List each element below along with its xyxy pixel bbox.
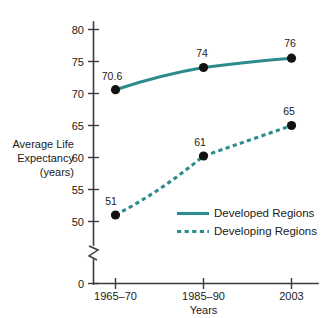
life-expectancy-line-chart: Average Life Expectancy (years) 80 75 70 — [0, 0, 323, 318]
x-axis-tick-labels: 1965–70 1985–90 2003 — [94, 290, 304, 302]
legend-item-developing-regions[interactable]: Developing Regions — [177, 225, 317, 237]
y-tick-label-0: 0 — [78, 278, 84, 290]
data-point-developed-1965-70 — [111, 85, 120, 94]
series-developing-regions: 51 61 65 — [105, 105, 296, 220]
chart-legend: Developed Regions Developing Regions — [177, 207, 317, 237]
data-label-developing-2003: 65 — [283, 105, 295, 117]
data-label-developed-1985-90: 74 — [196, 47, 208, 59]
y-tick-label-65: 65 — [72, 120, 84, 132]
y-tick-label-80: 80 — [72, 24, 84, 36]
y-tick-label-70: 70 — [72, 88, 84, 100]
data-label-developing-1965-70: 51 — [105, 195, 117, 207]
x-axis-title: Years — [190, 304, 218, 316]
data-point-developed-2003 — [287, 54, 296, 63]
y-tick-label-75: 75 — [72, 56, 84, 68]
y-axis-tick-labels: 80 75 70 65 60 55 50 0 — [72, 24, 84, 290]
y-axis-title: Average Life Expectancy (years) — [12, 138, 74, 178]
chart-canvas: Average Life Expectancy (years) 80 75 70 — [0, 0, 323, 318]
data-point-developing-1985-90 — [199, 151, 208, 160]
data-point-developing-1965-70 — [111, 210, 120, 219]
x-tick-label-1985-90: 1985–90 — [182, 290, 225, 302]
legend-item-developed-regions[interactable]: Developed Regions — [177, 207, 315, 219]
y-axis-title-line-2: Expectancy — [17, 152, 74, 164]
series-developed-regions: 70.6 74 76 — [102, 37, 296, 94]
y-tick-label-50: 50 — [72, 216, 84, 228]
y-tick-label-55: 55 — [72, 184, 84, 196]
data-label-developing-1985-90: 61 — [194, 136, 206, 148]
x-tick-label-1965-70: 1965–70 — [94, 290, 137, 302]
x-tick-label-2003: 2003 — [279, 290, 303, 302]
y-axis-break-icon — [89, 246, 98, 260]
legend-label-developing-regions: Developing Regions — [214, 225, 317, 237]
data-label-developed-2003: 76 — [284, 37, 296, 49]
data-point-developed-1985-90 — [199, 63, 208, 72]
legend-label-developed-regions: Developed Regions — [214, 207, 315, 219]
data-point-developing-2003 — [287, 121, 296, 130]
y-axis-title-line-3: (years) — [40, 166, 74, 178]
data-label-developed-1965-70: 70.6 — [102, 70, 123, 82]
y-axis-title-line-1: Average Life — [12, 138, 74, 150]
y-tick-label-60: 60 — [72, 152, 84, 164]
